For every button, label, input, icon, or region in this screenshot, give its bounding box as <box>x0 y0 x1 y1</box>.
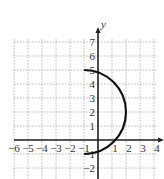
svg-text:2: 2 <box>126 142 132 154</box>
svg-text:3: 3 <box>90 92 96 104</box>
svg-text:4: 4 <box>154 142 160 154</box>
y-axis-arrow-icon <box>96 27 101 33</box>
svg-text:−3: −3 <box>50 142 62 154</box>
svg-text:−4: −4 <box>36 142 48 154</box>
svg-text:6: 6 <box>90 50 96 62</box>
svg-text:2: 2 <box>90 106 96 118</box>
svg-text:−2: −2 <box>64 142 76 154</box>
svg-text:−2: −2 <box>83 162 95 174</box>
svg-text:1: 1 <box>90 120 96 132</box>
svg-text:−5: −5 <box>22 142 34 154</box>
graph: y −6−5−4−3−2−11234 7654321−1−2 <box>0 0 164 179</box>
svg-text:7: 7 <box>90 36 96 48</box>
svg-text:−6: −6 <box>8 142 20 154</box>
svg-text:3: 3 <box>140 142 146 154</box>
y-axis-label: y <box>100 18 106 30</box>
svg-text:4: 4 <box>90 78 96 90</box>
